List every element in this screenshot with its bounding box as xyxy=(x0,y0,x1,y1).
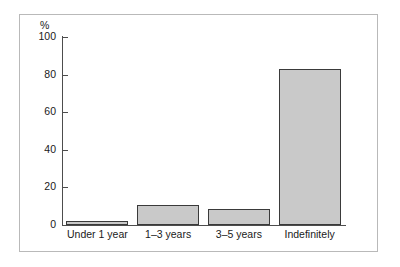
bar-chart-figure: % 020406080100 Under 1 year1–3 years3–5 … xyxy=(0,0,400,267)
x-axis-label-3: Indefinitely xyxy=(274,229,345,241)
y-axis-tick: 100 xyxy=(8,37,56,38)
y-axis-tick-label: 60 xyxy=(10,106,56,117)
y-axis-tick: 60 xyxy=(8,112,56,113)
y-axis-unit-label: % xyxy=(40,20,49,31)
bar-0 xyxy=(66,221,128,225)
plot-area xyxy=(62,37,345,225)
y-axis-tick: 0 xyxy=(8,225,56,226)
y-axis-tick-label: 20 xyxy=(10,181,56,192)
y-axis-tick-mark xyxy=(63,225,68,226)
bar-2 xyxy=(208,209,270,225)
y-axis-tick-label: 0 xyxy=(10,219,56,230)
y-axis-tick-label: 40 xyxy=(10,144,56,155)
bar-1 xyxy=(137,205,199,225)
y-axis-tick: 20 xyxy=(8,187,56,188)
x-axis-line xyxy=(62,225,346,226)
y-axis-tick-label: 100 xyxy=(10,31,56,42)
y-axis-tick-label: 80 xyxy=(10,69,56,80)
x-axis-label-2: 3–5 years xyxy=(204,229,275,241)
y-axis-tick: 80 xyxy=(8,75,56,76)
y-axis-tick: 40 xyxy=(8,150,56,151)
x-axis-label-0: Under 1 year xyxy=(62,229,133,241)
x-axis-label-1: 1–3 years xyxy=(133,229,204,241)
bar-3 xyxy=(279,69,341,225)
